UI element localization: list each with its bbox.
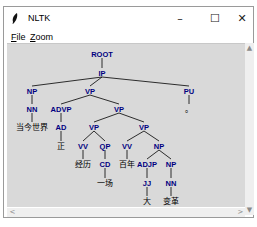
- tree-node-label[interactable]: NP: [166, 160, 176, 169]
- tree-node-label[interactable]: JJ: [143, 179, 151, 188]
- tree-node-label[interactable]: VP: [89, 123, 99, 132]
- tree-leaf[interactable]: 大: [143, 196, 151, 206]
- scroll-up-icon[interactable]: ▲: [245, 44, 254, 53]
- tree-edge: [94, 113, 119, 122]
- tree-leaf[interactable]: 。: [185, 105, 193, 114]
- close-button[interactable]: ✕: [229, 10, 255, 28]
- tree-edge: [61, 95, 90, 104]
- tree-leaf[interactable]: 一场: [97, 179, 113, 188]
- tree-node-label[interactable]: NP: [154, 142, 164, 151]
- tree-node-label[interactable]: PU: [184, 87, 194, 96]
- tree-node-label[interactable]: AD: [56, 123, 67, 132]
- parse-tree: ROOTIPNPVPPUNNADVPVP。当今世界ADVPVP正VVQPVVNP…: [7, 44, 249, 207]
- tree-node-label[interactable]: VP: [85, 87, 95, 96]
- tree-leaf[interactable]: 当今世界: [16, 122, 48, 132]
- minimize-button[interactable]: –: [167, 10, 193, 28]
- scroll-left-icon[interactable]: <: [8, 208, 17, 217]
- tree-leaf[interactable]: 经历: [75, 159, 91, 169]
- tree-edge: [102, 77, 189, 86]
- menu-bar: File Zoom: [4, 31, 253, 43]
- tree-node-label[interactable]: VP: [114, 105, 124, 114]
- tree-node-label[interactable]: ROOT: [91, 50, 113, 59]
- tree-leaf[interactable]: 正: [57, 142, 65, 151]
- tree-node-label[interactable]: NN: [166, 179, 177, 188]
- tree-edge: [119, 113, 144, 122]
- tree-leaf[interactable]: 变革: [163, 196, 179, 206]
- window-title: NLTK: [28, 13, 50, 23]
- tree-edge: [94, 131, 105, 141]
- tree-edge: [127, 131, 144, 141]
- menu-zoom[interactable]: Zoom: [30, 31, 53, 43]
- tree-edge: [83, 131, 94, 141]
- vertical-scrollbar[interactable]: ▲ ▼: [245, 43, 254, 215]
- scroll-right-icon[interactable]: >: [236, 208, 245, 217]
- tree-node-label[interactable]: VV: [78, 142, 88, 151]
- tree-edge: [159, 150, 171, 159]
- tree-node-label[interactable]: ADVP: [51, 105, 72, 114]
- menu-file[interactable]: File: [11, 31, 26, 43]
- tree-node-label[interactable]: NP: [27, 87, 37, 96]
- tree-node-label[interactable]: QP: [100, 142, 111, 151]
- tree-edge: [147, 150, 159, 159]
- tree-leaf[interactable]: 百年: [119, 159, 135, 169]
- horizontal-scrollbar[interactable]: < >: [7, 207, 245, 217]
- tree-edge: [90, 95, 119, 104]
- tree-canvas[interactable]: ROOTIPNPVPPUNNADVPVP。当今世界ADVPVP正VVQPVVNP…: [7, 43, 249, 207]
- nltk-window: NLTK – ☐ ✕ File Zoom ROOTIPNPVPPUNNADVPV…: [3, 6, 254, 218]
- tree-node-label[interactable]: VP: [139, 123, 149, 132]
- tree-node-label[interactable]: VV: [122, 142, 132, 151]
- tree-node-label[interactable]: NN: [27, 105, 38, 114]
- scroll-down-icon[interactable]: ▼: [245, 206, 254, 215]
- tree-node-label[interactable]: IP: [98, 69, 105, 78]
- feather-icon: [12, 13, 18, 24]
- tree-node-label[interactable]: CD: [100, 160, 111, 169]
- tree-edge: [144, 131, 159, 141]
- tree-node-label[interactable]: ADJP: [137, 160, 157, 169]
- title-bar[interactable]: NLTK – ☐ ✕: [4, 7, 253, 31]
- maximize-button[interactable]: ☐: [202, 10, 228, 28]
